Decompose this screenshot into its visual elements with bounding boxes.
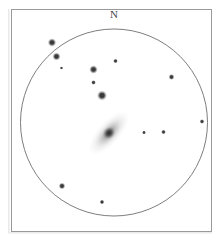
- field-of-view-canvas: [0, 0, 224, 240]
- star-marker: [201, 120, 203, 122]
- star-marker: [100, 93, 105, 98]
- star-marker: [162, 131, 164, 133]
- star-marker: [60, 184, 63, 187]
- eyepiece-sketch-figure: N: [0, 0, 224, 240]
- star-marker: [54, 54, 58, 58]
- star-marker: [91, 67, 95, 71]
- star-marker: [114, 60, 116, 62]
- star-marker: [61, 67, 63, 69]
- star-marker: [101, 201, 103, 203]
- star-marker: [50, 40, 54, 44]
- star-marker: [143, 131, 145, 133]
- star-marker: [92, 81, 94, 83]
- star-marker: [170, 76, 173, 79]
